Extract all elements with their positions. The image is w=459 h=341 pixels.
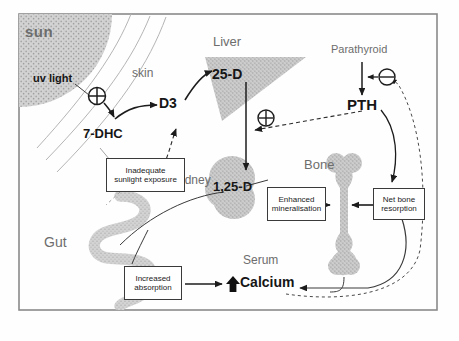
label-serum: Serum <box>243 254 278 266</box>
arrow-dhc-to-d3 <box>115 105 157 119</box>
label-gut: Gut <box>44 235 67 249</box>
line-bone-bottom-loop <box>330 277 344 292</box>
calcium-up-arrow-icon <box>226 276 240 292</box>
label-liver: Liver <box>213 35 241 48</box>
box-absorption-line2: absorption <box>134 283 171 292</box>
box-inadequate-sunlight: Inadequate sunlight exposure <box>106 158 185 192</box>
diagram-vector-layer <box>0 0 459 341</box>
arrow-bone-to-calcium <box>300 219 406 288</box>
label-uv-light: uv light <box>33 73 72 84</box>
arrow-d3-to-25d <box>185 71 212 100</box>
box-resorption-line2: resorption <box>381 204 417 213</box>
box-inadequate-line2: sunlight exposure <box>114 175 177 184</box>
label-7dhc: 7-DHC <box>83 127 123 140</box>
arrow-pth-to-resorption <box>381 110 396 182</box>
label-calcium: Calcium <box>240 275 294 289</box>
label-bone: Bone <box>304 158 334 171</box>
box-enhanced-mineralisation: Enhanced mineralisation <box>267 187 326 221</box>
minus-circle-parathyroid <box>379 69 395 85</box>
label-d3: D3 <box>159 96 177 110</box>
box-mineralisation-line1: Enhanced <box>278 195 314 204</box>
box-inadequate-line1: Inadequate <box>125 166 165 175</box>
label-skin: skin <box>132 67 153 79</box>
box-resorption-line1: Net bone <box>383 195 415 204</box>
plus-circle-uv <box>89 88 106 105</box>
label-25d: 25-D <box>212 67 242 81</box>
label-125d: 1,25-D <box>213 180 252 193</box>
box-increased-absorption: Increased absorption <box>124 266 182 300</box>
plus-circle-pth <box>258 110 274 126</box>
label-sun: sun <box>25 24 53 39</box>
diagram-canvas: sun uv light skin 7-DHC D3 Liver 25-D Pa… <box>0 0 459 341</box>
label-parathyroid: Parathyroid <box>331 44 387 55</box>
label-pth: PTH <box>347 97 377 112</box>
box-absorption-line1: Increased <box>135 274 170 283</box>
box-net-bone-resorption: Net bone resorption <box>373 188 425 220</box>
box-mineralisation-line2: mineralisation <box>272 204 321 213</box>
